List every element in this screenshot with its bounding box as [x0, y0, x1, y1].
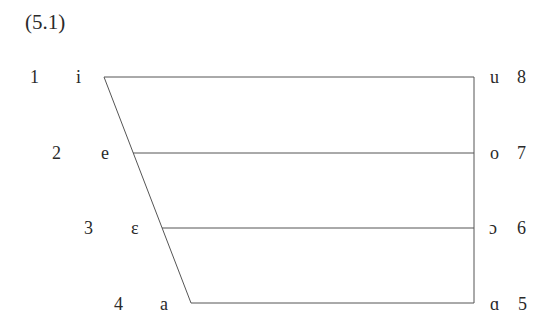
- left-diagonal: [104, 77, 191, 303]
- vowel-symbol-e: e: [101, 144, 109, 162]
- vowel-number-7: 7: [517, 144, 526, 162]
- vowel-number-5: 5: [518, 295, 527, 313]
- vowel-symbol-script-a: ɑ: [490, 295, 499, 313]
- vowel-number-4: 4: [114, 295, 123, 313]
- vowel-symbol-o: o: [490, 144, 499, 162]
- vowel-symbol-u: u: [490, 68, 499, 86]
- vowel-number-1: 1: [30, 68, 39, 86]
- vowel-symbol-open-o: ɔ: [489, 219, 497, 237]
- vowel-number-6: 6: [517, 219, 526, 237]
- vowel-symbol-i: i: [76, 68, 81, 86]
- vowel-symbol-open-e: ɛ: [131, 219, 139, 237]
- vowel-quadrilateral: [0, 0, 560, 333]
- vowel-number-3: 3: [84, 219, 93, 237]
- vowel-number-8: 8: [517, 68, 526, 86]
- vowel-number-2: 2: [52, 144, 61, 162]
- vowel-symbol-a: a: [160, 295, 168, 313]
